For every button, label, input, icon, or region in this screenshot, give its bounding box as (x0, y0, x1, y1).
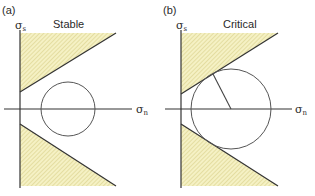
mohr-diagram: (a) Stable σs σn (b) Critical σs σn (0, 0, 315, 196)
panel-b-title: Critical (223, 18, 257, 30)
panel-b: (b) Critical σs σn (163, 4, 308, 188)
panel-a-title: Stable (53, 18, 84, 30)
x-axis-label-a: σn (136, 103, 149, 117)
x-axis-label-b: σn (295, 103, 308, 117)
y-axis-label-a: σs (15, 19, 27, 33)
panel-a: (a) Stable σs σn (2, 4, 149, 188)
circle-radius-to-tangent (213, 74, 231, 109)
panel-a-tag: (a) (2, 4, 15, 16)
panel-b-tag: (b) (163, 4, 176, 16)
y-axis-label-b: σs (176, 19, 188, 33)
